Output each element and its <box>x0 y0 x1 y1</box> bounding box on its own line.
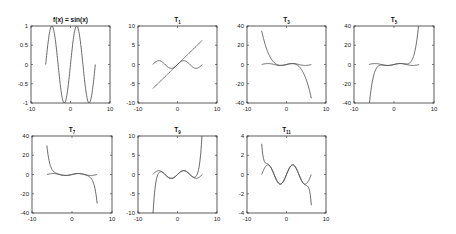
subplot-title: T11 <box>282 126 291 135</box>
subplot-title: T1 <box>174 16 181 25</box>
x-tick-label: 0 <box>285 106 289 112</box>
x-tick-label: 10 <box>323 216 330 222</box>
y-tick-label: 20 <box>344 42 351 48</box>
x-tick-label: -10 <box>243 216 252 222</box>
x-tick-label: -10 <box>28 216 37 222</box>
y-tick-label: -1 <box>23 100 29 106</box>
y-tick-label: -40 <box>342 100 351 106</box>
title-subscript: 11 <box>286 130 291 135</box>
x-tick-label: -10 <box>134 216 143 222</box>
title-subscript: 7 <box>73 130 76 135</box>
y-tick-label: 2 <box>241 152 245 158</box>
y-tick-label: -0.5 <box>18 81 29 87</box>
x-tick-label: 0 <box>69 106 73 112</box>
subplot-title: f(x) = sin(x) <box>53 16 88 24</box>
subplot-6: -100101050-5-10T9 <box>126 126 221 222</box>
title-subscript: 1 <box>178 20 181 25</box>
y-tick-label: -20 <box>235 81 244 87</box>
y-tick-label: 20 <box>237 42 244 48</box>
y-tick-label: 0 <box>26 172 30 178</box>
subplot-title: T7 <box>69 126 76 135</box>
subplot-4: -1001040200-20-40T5 <box>342 16 438 112</box>
y-tick-label: -10 <box>126 100 135 106</box>
subplot-3: -1001040200-20-40T3 <box>235 16 330 112</box>
title-subscript: 3 <box>287 20 290 25</box>
y-tick-label: -40 <box>235 100 244 106</box>
x-tick-label: 0 <box>176 106 180 112</box>
x-tick-label: 10 <box>214 216 221 222</box>
y-tick-label: -4 <box>239 210 245 216</box>
y-tick-label: -40 <box>20 210 29 216</box>
y-tick-label: 40 <box>237 23 244 29</box>
x-tick-label: 0 <box>392 106 396 112</box>
x-tick-label: 10 <box>323 106 330 112</box>
x-tick-label: 10 <box>431 106 438 112</box>
y-tick-label: 1 <box>25 23 29 29</box>
subplot-title: T9 <box>174 126 181 135</box>
x-tick-label: -10 <box>134 106 143 112</box>
y-tick-label: 0 <box>348 62 352 68</box>
x-tick-label: -10 <box>350 106 359 112</box>
y-tick-label: 10 <box>128 133 135 139</box>
y-tick-label: 0 <box>241 172 245 178</box>
y-tick-label: 40 <box>22 133 29 139</box>
y-tick-label: 20 <box>22 152 29 158</box>
y-tick-label: 0 <box>25 62 29 68</box>
y-tick-label: 0 <box>132 172 136 178</box>
y-tick-label: -10 <box>126 210 135 216</box>
y-tick-label: -20 <box>342 81 351 87</box>
subplot-5: -1001040200-20-40T7 <box>20 126 116 222</box>
y-tick-label: 0 <box>132 62 136 68</box>
y-tick-label: -20 <box>20 191 29 197</box>
title-subscript: 5 <box>395 20 398 25</box>
x-tick-label: 0 <box>70 216 74 222</box>
y-tick-label: -5 <box>130 191 136 197</box>
x-tick-label: 10 <box>109 216 116 222</box>
y-tick-label: 0 <box>241 62 245 68</box>
x-tick-label: 10 <box>214 106 221 112</box>
title-subscript: 9 <box>178 130 181 135</box>
y-tick-label: 5 <box>132 152 136 158</box>
y-tick-label: 40 <box>344 23 351 29</box>
subplot-title: T5 <box>391 16 398 25</box>
x-tick-label: 0 <box>285 216 289 222</box>
y-tick-label: 5 <box>132 42 136 48</box>
x-tick-label: 10 <box>107 106 114 112</box>
x-tick-label: -10 <box>27 106 36 112</box>
y-tick-label: 10 <box>128 23 135 29</box>
y-tick-label: -5 <box>130 81 136 87</box>
subplot-2: -100101050-5-10T1 <box>126 16 221 112</box>
y-tick-label: 4 <box>241 133 245 139</box>
subplot-7: -10010420-2-4T11 <box>239 126 330 222</box>
x-tick-label: 0 <box>176 216 180 222</box>
x-tick-label: -10 <box>243 106 252 112</box>
y-tick-label: -2 <box>239 191 245 197</box>
subplot-1: -1001010.50-0.5-1f(x) = sin(x) <box>18 16 114 112</box>
y-tick-label: 0.5 <box>20 42 29 48</box>
title-main: f(x) = sin(x) <box>53 16 88 24</box>
taylor-series-figure: -1001010.50-0.5-1f(x) = sin(x)-100101050… <box>0 0 456 234</box>
subplot-title: T3 <box>283 16 290 25</box>
